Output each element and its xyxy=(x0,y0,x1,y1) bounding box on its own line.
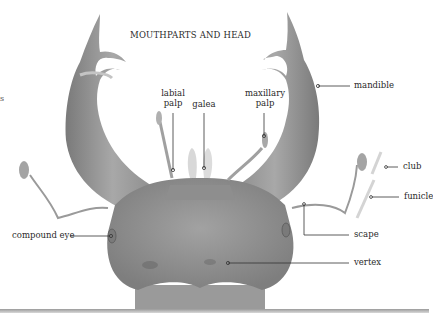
label-scape: scape xyxy=(354,229,379,239)
left-mandible xyxy=(66,14,160,210)
bottom-divider xyxy=(0,309,429,313)
label-vertex: vertex xyxy=(354,257,381,267)
head-capsule xyxy=(107,178,293,290)
label-compound-eye: compound eye xyxy=(12,230,74,240)
right-mandible xyxy=(230,12,319,210)
label-labial-palp-line1: labial xyxy=(158,88,188,98)
label-labial-palp: labial palp xyxy=(158,88,188,108)
label-maxillary-palp-line1: maxillary xyxy=(244,88,286,98)
label-galea: galea xyxy=(189,99,219,109)
label-maxillary-palp: maxillary palp xyxy=(244,88,286,108)
label-labial-palp-line2: palp xyxy=(158,98,188,108)
diagram-title: MOUTHPARTS AND HEAD xyxy=(130,30,251,40)
label-maxillary-palp-line2: palp xyxy=(244,98,286,108)
label-funicle: funicle xyxy=(404,191,433,201)
label-club: club xyxy=(403,161,421,171)
label-mandible: mandible xyxy=(354,80,394,90)
edge-text: s xyxy=(0,94,4,103)
neck xyxy=(135,285,265,311)
